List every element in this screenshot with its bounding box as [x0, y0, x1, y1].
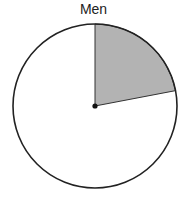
- pie-chart: [0, 0, 187, 200]
- center-dot: [92, 103, 97, 108]
- pie-slice-shaded: [95, 24, 176, 106]
